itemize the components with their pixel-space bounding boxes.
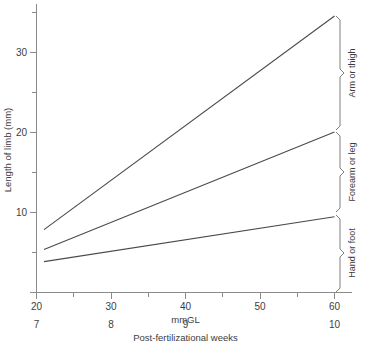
y-tick-label-20: 20	[16, 127, 28, 138]
chart-background	[0, 0, 365, 343]
x-tick-label-40: 40	[180, 301, 192, 312]
week-tick-label-7: 7	[34, 319, 40, 330]
y-tick-label-10: 10	[16, 207, 28, 218]
y-tick-label-30: 30	[16, 47, 28, 58]
bracket-label-hand-or-foot: Hand or foot	[347, 228, 357, 278]
x-tick-label-60: 60	[329, 301, 341, 312]
limb-growth-chart: 30 20 10 Length of limb (mm) 20 30 40 50…	[0, 0, 365, 343]
week-tick-label-8: 8	[108, 319, 114, 330]
bracket-label-forearm-or-leg: Forearm or leg	[347, 142, 357, 201]
week-tick-label-10: 10	[329, 319, 341, 330]
secondary-axis-title: Post-fertilizational weeks	[133, 332, 238, 343]
x-tick-label-20: 20	[31, 301, 43, 312]
week-tick-label-9: 9	[183, 319, 189, 330]
chart-svg: 30 20 10 Length of limb (mm) 20 30 40 50…	[0, 0, 365, 343]
x-tick-label-30: 30	[105, 301, 117, 312]
x-tick-label-50: 50	[254, 301, 266, 312]
y-axis-title: Length of limb (mm)	[2, 108, 13, 192]
bracket-label-arm-or-thigh: Arm or thigh	[347, 48, 357, 97]
